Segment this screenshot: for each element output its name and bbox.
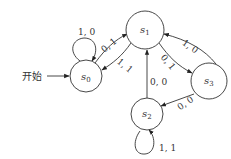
state-diagram: 开始 1, 0 0, 1 1, 1 0, 1 1, 0 0, 0 0, 0 1,… (0, 0, 231, 159)
start-arrow: 开始 (22, 70, 69, 82)
transition-label: 1, 0 (180, 37, 200, 55)
transition-label: 0, 0 (150, 77, 167, 87)
start-label: 开始 (22, 70, 42, 82)
transition-s0-s0: 1, 0 (73, 27, 96, 61)
transition-label: 0, 1 (159, 52, 178, 72)
transition-s2-s2: 1, 1 (135, 130, 176, 154)
state-s3: s3 (191, 63, 227, 99)
transition-label: 1, 0 (78, 27, 95, 37)
state-s2: s2 (131, 98, 163, 130)
state-s1: s1 (126, 11, 164, 49)
transition-s3-s2: 0, 0 (161, 94, 195, 112)
transition-label: 0, 1 (99, 36, 119, 55)
transition-label: 0, 0 (175, 94, 195, 112)
state-s0: s0 (70, 60, 102, 92)
transition-label: 1, 1 (159, 143, 176, 153)
transition-label: 1, 1 (115, 56, 135, 75)
